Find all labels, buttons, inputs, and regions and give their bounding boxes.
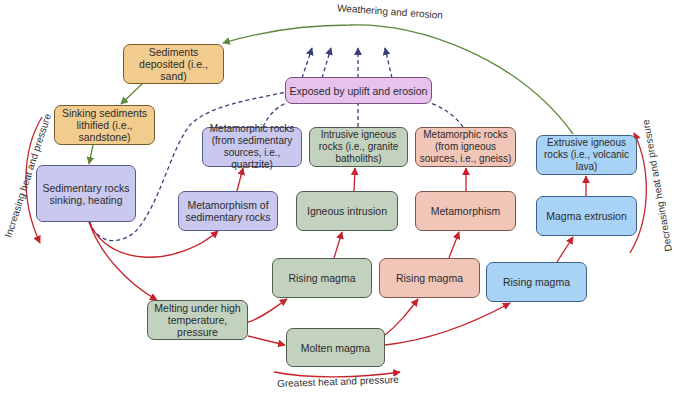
node-label: Intrusive igneous rocks (i.e., granite b… [313,129,404,165]
node-label: Magma extrusion [546,210,627,222]
node-label: Rising magma [396,272,463,284]
node-magma-extrusion: Magma extrusion [536,196,637,236]
node-rising-magma-intrusive: Rising magma [272,258,372,298]
node-igneous-intrusion: Igneous intrusion [296,191,398,231]
node-label: Metamorphism of sedimentary rocks [182,199,274,223]
node-label: Metamorphic rocks (from igneous sources,… [419,129,512,165]
node-label: Sediments deposited (i.e., sand) [127,46,220,82]
node-label: Melting under high temperature, pressure [151,302,244,338]
node-label: Exposed by uplift and erosion [290,85,428,97]
node-label: Metamorphism [431,205,500,217]
node-molten-magma: Molten magma [286,328,385,367]
node-sinking-sediments-lithified: Sinking sediments lithified (i.e., sands… [54,105,155,145]
node-label: Igneous intrusion [307,205,387,217]
node-metamorphism-sedimentary: Metamorphism of sedimentary rocks [178,191,278,231]
node-sediments-deposited: Sediments deposited (i.e., sand) [123,44,224,84]
node-extrusive-igneous-rocks: Extrusive igneous rocks (i.e., volcanic … [536,135,637,175]
node-label: Sinking sediments lithified (i.e., sands… [58,107,151,143]
node-intrusive-igneous-rocks: Intrusive igneous rocks (i.e., granite b… [309,127,408,167]
node-metamorphism: Metamorphism [415,191,516,231]
node-exposed-by-uplift: Exposed by uplift and erosion [285,77,432,104]
node-metamorphic-rocks-sedimentary: Metamorphic rocks (from sedimentary sour… [202,127,302,167]
node-rising-magma-extrusive: Rising magma [486,262,587,302]
node-melting-under-high-temperature: Melting under high temperature, pressure [147,300,248,340]
node-sedimentary-rocks-sinking: Sedimentary rocks sinking, heating [36,165,136,222]
node-metamorphic-rocks-igneous: Metamorphic rocks (from igneous sources,… [415,127,516,167]
node-label: Rising magma [503,276,570,288]
node-rising-magma-metamorphic: Rising magma [379,258,480,298]
node-label: Rising magma [288,272,355,284]
node-label: Extrusive igneous rocks (i.e., volcanic … [540,137,633,173]
node-label: Sedimentary rocks sinking, heating [40,182,132,206]
node-label: Metamorphic rocks (from sedimentary sour… [206,123,298,171]
node-label: Molten magma [301,342,370,354]
